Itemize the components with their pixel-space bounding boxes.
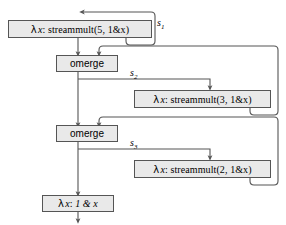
- streammult-3-box[interactable]: λx: streammult(3, 1&x): [134, 90, 271, 108]
- lambda-colon: :: [70, 198, 73, 209]
- lambda-colon: :: [165, 94, 168, 105]
- streammult-5-box[interactable]: λx: streammult(5, 1&x): [8, 20, 152, 38]
- omerge-box-2[interactable]: omerge: [56, 125, 118, 142]
- lambda-colon: :: [165, 164, 168, 175]
- lambda-body: streammult(3, 1&x): [170, 94, 251, 105]
- edge-label-s3: s3: [130, 137, 137, 151]
- one-and-x-box[interactable]: λx: 1 & x: [42, 195, 114, 212]
- lambda-body: streammult(5, 1&x): [48, 24, 129, 35]
- diagram-canvas: λx: streammult(5, 1&x) s1 omerge s2 λx: …: [0, 0, 286, 225]
- edge-label-s1: s1: [157, 17, 164, 31]
- omerge-label-1: omerge: [70, 58, 104, 69]
- lambda-body: 1 & x: [75, 198, 98, 209]
- lambda-colon: :: [42, 24, 45, 35]
- omerge-label-2: omerge: [70, 128, 104, 139]
- omerge-box-1[interactable]: omerge: [56, 55, 118, 72]
- lambda-body: streammult(2, 1&x): [170, 164, 251, 175]
- edge-s3-branch-to-streammult2: [78, 149, 210, 158]
- lambda-symbol: λ: [31, 24, 38, 35]
- edge-s2-branch-to-streammult3: [78, 79, 210, 88]
- edge-label-s2: s2: [130, 67, 137, 81]
- streammult-2-box[interactable]: λx: streammult(2, 1&x): [134, 160, 271, 178]
